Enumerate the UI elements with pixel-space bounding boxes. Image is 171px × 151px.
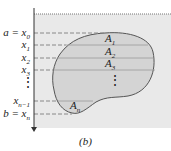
axis-label-xn: b = xn (3, 107, 30, 122)
axis-label-dots: ⋮ (21, 74, 35, 92)
figure-caption: (b) (0, 135, 171, 147)
strip-label-an: An (70, 99, 80, 114)
strip-label-dots: ⋮ (108, 72, 122, 90)
strip-label-a3: A3 (105, 57, 115, 72)
